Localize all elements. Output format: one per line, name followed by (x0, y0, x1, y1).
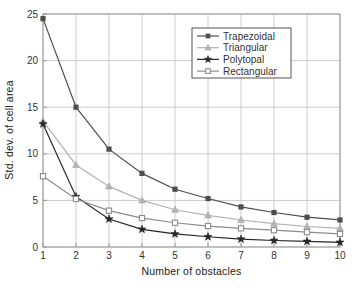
legend-label-trapezoidal: Trapezoidal (223, 31, 275, 42)
marker-open-square (73, 196, 78, 201)
y-tick-label: 20 (27, 55, 39, 66)
marker-open-square (139, 216, 144, 221)
x-tick-label: 4 (139, 250, 145, 261)
marker-square (205, 196, 210, 201)
x-tick-label: 1 (40, 250, 46, 261)
marker-open-square (40, 174, 45, 179)
marker-open-square (172, 220, 177, 225)
x-tick-label: 3 (106, 250, 112, 261)
marker-open-square (205, 223, 210, 228)
y-tick-label: 0 (32, 242, 38, 253)
marker-square (304, 215, 309, 220)
legend-label-polytopal: Polytopal (223, 54, 264, 65)
x-tick-label: 5 (172, 250, 178, 261)
marker-square (40, 16, 45, 21)
marker-square (238, 204, 243, 209)
marker-open-square (206, 69, 211, 74)
marker-square (271, 210, 276, 215)
x-tick-label: 6 (205, 250, 211, 261)
x-tick-label: 9 (304, 250, 310, 261)
marker-open-square (337, 231, 342, 236)
legend-label-triangular: Triangular (223, 42, 268, 53)
marker-open-square (106, 208, 111, 213)
y-tick-label: 25 (27, 9, 39, 20)
marker-open-square (238, 226, 243, 231)
y-tick-label: 5 (32, 195, 38, 206)
marker-square (139, 171, 144, 176)
y-axis-label: Std. dev. of cell area (3, 80, 15, 179)
matlab-figure: 123456789100510152025TrapezoidalTriangul… (0, 0, 356, 288)
marker-open-square (304, 229, 309, 234)
x-axis-label: Number of obstacles (43, 265, 340, 277)
x-tick-label: 2 (73, 250, 79, 261)
series-triangular-line (43, 121, 340, 228)
chart-canvas: 123456789100510152025TrapezoidalTriangul… (0, 0, 356, 288)
marker-open-square (271, 228, 276, 233)
x-tick-label: 8 (271, 250, 277, 261)
marker-square (206, 34, 211, 39)
x-tick-label: 10 (334, 250, 346, 261)
marker-square (337, 217, 342, 222)
x-tick-label: 7 (238, 250, 244, 261)
marker-triangle (106, 183, 113, 189)
y-tick-label: 10 (27, 148, 39, 159)
marker-square (73, 105, 78, 110)
y-tick-label: 15 (27, 102, 39, 113)
marker-square (172, 187, 177, 192)
marker-square (106, 147, 111, 152)
legend-label-rectangular: Rectangular (223, 66, 278, 77)
